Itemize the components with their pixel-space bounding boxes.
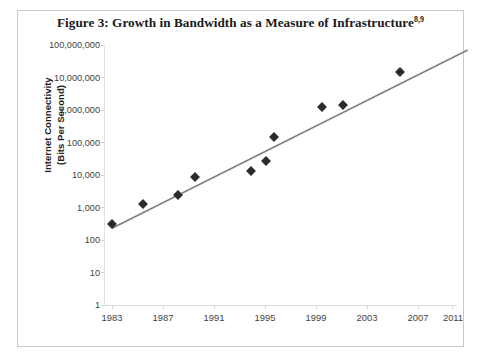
y-axis-title: Internet Connectivity(Bits Per Second) <box>41 65 67 185</box>
y-tick-1000: 1,000 <box>77 203 100 213</box>
figure-root: Figure 3: Growth in Bandwidth as a Measu… <box>0 0 480 357</box>
y-tick-100: 100 <box>85 235 100 245</box>
x-tick-2003: 2003 <box>357 312 378 323</box>
x-tick-1983: 1983 <box>102 312 123 323</box>
y-tick-mark <box>101 175 104 176</box>
y-tick-10: 10 <box>90 268 100 278</box>
y-axis-title-line1: Internet Connectivity <box>42 77 53 172</box>
x-tick-mark <box>418 306 419 309</box>
x-tick-1995: 1995 <box>255 312 276 323</box>
x-tick-1987: 1987 <box>153 312 174 323</box>
x-tick-mark <box>214 306 215 309</box>
y-tick-mark <box>101 110 104 111</box>
x-tick-2007: 2007 <box>408 312 429 323</box>
y-axis-line <box>104 45 105 306</box>
y-tick-100000000: 100,000,000 <box>49 40 100 50</box>
y-tick-mark <box>101 77 104 78</box>
x-tick-mark <box>452 306 453 309</box>
y-tick-mark <box>101 45 104 46</box>
y-tick-1: 1 <box>95 300 100 310</box>
y-axis-title-line2: (Bits Per Second) <box>55 85 66 165</box>
x-tick-mark <box>265 306 266 309</box>
y-tick-mark <box>101 240 104 241</box>
x-tick-1991: 1991 <box>204 312 225 323</box>
chart-title-text: Figure 3: Growth in Bandwidth as a Measu… <box>57 15 414 30</box>
y-tick-mark <box>101 207 104 208</box>
y-tick-mark <box>101 272 104 273</box>
x-tick-2011: 2011 <box>443 312 463 323</box>
x-tick-mark <box>163 306 164 309</box>
y-tick-100000: 100,000 <box>67 138 100 148</box>
x-tick-mark <box>367 306 368 309</box>
chart-title-superscript: 8,9 <box>414 15 424 24</box>
x-tick-mark <box>316 306 317 309</box>
x-axis-line <box>104 305 457 306</box>
x-tick-1999: 1999 <box>306 312 327 323</box>
y-tick-mark <box>101 305 104 306</box>
y-tick-mark <box>101 142 104 143</box>
x-tick-mark <box>112 306 113 309</box>
y-tick-10000: 10,000 <box>72 170 100 180</box>
